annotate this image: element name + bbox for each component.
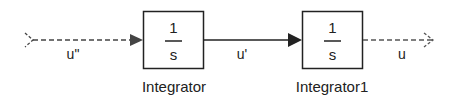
signal-line-u-prime[interactable] xyxy=(204,33,302,47)
signal-label-u-double-prime: u" xyxy=(67,46,80,62)
signal-label-u-prime: u' xyxy=(237,46,247,62)
arrowhead-icon xyxy=(288,33,302,47)
integrator1-block-name: Integrator1 xyxy=(296,78,369,95)
signal-line-u[interactable] xyxy=(363,33,433,47)
integrator-block[interactable]: 1 s xyxy=(144,12,204,69)
signal-label-u: u xyxy=(398,46,406,62)
arrowhead-icon xyxy=(130,34,143,46)
input-port-icon xyxy=(25,33,33,47)
signal-line-u-double-prime[interactable] xyxy=(33,34,143,46)
integrator-block-name: Integrator xyxy=(142,78,206,95)
integrator1-numerator: 1 xyxy=(328,19,336,36)
integrator-denominator: s xyxy=(170,46,178,63)
block-diagram-canvas: u" 1 s Integrator u' 1 s Integrator1 u xyxy=(0,0,457,103)
integrator1-block[interactable]: 1 s xyxy=(303,12,363,69)
integrator-numerator: 1 xyxy=(169,19,177,36)
integrator1-denominator: s xyxy=(329,46,337,63)
